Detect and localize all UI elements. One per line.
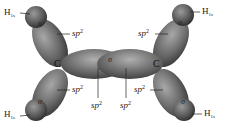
sp2-label-top-right: sp2 — [138, 29, 149, 38]
h1s-label-top-left: H1s — [4, 8, 15, 17]
sigma-symbol-bottom-left: σ — [38, 98, 42, 106]
h1s-label-bottom-right: H1s — [204, 109, 215, 118]
h1s-orbital-top-left — [25, 6, 47, 28]
sigma-bond-carbon-carbon — [61, 49, 163, 79]
h1s-label-top-right: H1s — [202, 7, 213, 16]
h1s-orbital-top-right — [172, 4, 194, 26]
sp2-label-cc-left: sp2 — [91, 101, 102, 110]
sigma-symbol-top-left: σ — [38, 20, 42, 28]
sigma-symbol-top-right: σ — [178, 19, 182, 27]
sp2-label-cc-right: sp2 — [120, 101, 131, 110]
carbon-label-left: C — [54, 59, 61, 69]
h1s-orbital-bottom-left — [25, 99, 47, 121]
sigma-symbol-bottom-right: σ — [181, 98, 185, 106]
h1s-label-bottom-left: H1s — [4, 110, 15, 119]
sp2-label-bottom-right: sp2 — [134, 85, 145, 94]
ethylene-sigma-diagram: σ σ σ σ σ C C H1s H1s H1s H1s sp2 sp2 sp… — [0, 0, 225, 126]
sp2-label-bottom-left: sp2 — [72, 85, 83, 94]
sigma-symbol-cc: σ — [108, 56, 112, 64]
sp2-label-top-left: sp2 — [72, 29, 83, 38]
carbon-label-right: C — [153, 59, 160, 69]
orbital-drawing — [0, 0, 225, 126]
